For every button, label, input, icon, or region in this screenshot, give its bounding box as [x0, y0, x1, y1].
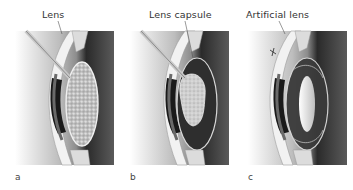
panel-label-c: c — [248, 172, 253, 182]
eye-illustration-lens-capsule — [115, 0, 233, 190]
eye-illustration-artificial-lens — [233, 0, 351, 190]
eye-illustration-natural-lens — [0, 0, 118, 190]
panel-c: Artificial lens — [233, 0, 351, 190]
panel-label-a: a — [15, 172, 21, 182]
panel-a: Lens — [0, 0, 118, 190]
panel-b: Lens capsule — [115, 0, 233, 190]
panel-label-b: b — [130, 172, 136, 182]
cataract-surgery-figure: Lens — [0, 0, 353, 190]
